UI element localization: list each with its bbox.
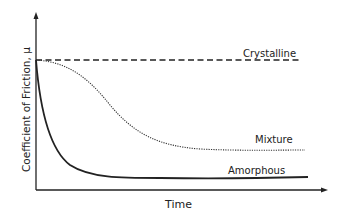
friction-chart: Crystalline Mixture Amorphous Time Coeff… (0, 0, 343, 217)
x-axis-arrow-icon (321, 188, 328, 193)
mixture-label: Mixture (255, 134, 293, 145)
amorphous-label: Amorphous (228, 165, 285, 176)
x-axis-label: Time (164, 198, 192, 211)
y-axis-label: Coefficient of Friction, μ (20, 47, 32, 172)
amorphous-line (36, 60, 308, 178)
crystalline-label: Crystalline (243, 48, 296, 59)
y-axis-arrow-icon (34, 12, 39, 19)
